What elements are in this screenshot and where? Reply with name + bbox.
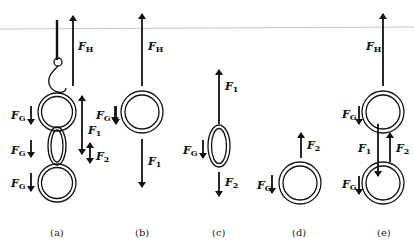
chain-ring-top — [38, 93, 76, 131]
chain-ring-bottom — [38, 164, 76, 202]
panel-e: FH FG FG F1 F2 (e) — [341, 14, 409, 238]
caption-a: (a) — [50, 227, 64, 238]
hook-icon — [49, 66, 66, 92]
svg-text:F1: F1 — [224, 80, 238, 94]
panel-d: F2 FG (d) — [256, 133, 321, 238]
svg-text:FH: FH — [365, 40, 382, 54]
caption-b: (b) — [135, 227, 149, 238]
svg-text:F1: F1 — [87, 124, 101, 138]
svg-text:F2: F2 — [224, 176, 238, 190]
svg-text:FH: FH — [147, 40, 164, 54]
svg-text:FG: FG — [256, 179, 272, 193]
svg-text:FG: FG — [95, 109, 111, 123]
svg-text:F2: F2 — [95, 150, 109, 164]
ring-e-bottom — [362, 162, 404, 204]
caption-e: (e) — [377, 227, 391, 238]
top-rule — [0, 27, 414, 29]
ring-b — [121, 91, 163, 133]
svg-text:F2: F2 — [395, 142, 409, 156]
svg-text:FG: FG — [10, 144, 26, 158]
svg-text:FG: FG — [341, 108, 357, 122]
panel-c: F1 FG F2 (c) — [182, 70, 238, 238]
svg-text:FG: FG — [10, 177, 26, 191]
caption-c: (c) — [212, 227, 226, 238]
svg-text:F1: F1 — [357, 142, 371, 156]
svg-text:FG: FG — [10, 109, 26, 123]
ring-e-top — [362, 91, 404, 133]
svg-text:F1: F1 — [147, 155, 161, 169]
ring-d — [279, 162, 321, 204]
svg-text:FH: FH — [77, 40, 94, 54]
panel-a: FH FG FG FG F1 F2 FG (a) — [10, 16, 116, 238]
svg-text:F2: F2 — [306, 139, 320, 153]
panel-b: FH F1 (b) — [115, 14, 164, 238]
free-body-diagram-figure: FH FG FG FG F1 F2 FG (a) FH — [0, 0, 414, 250]
svg-text:FG: FG — [341, 178, 357, 192]
caption-d: (d) — [292, 227, 306, 238]
svg-text:FG: FG — [182, 144, 198, 158]
